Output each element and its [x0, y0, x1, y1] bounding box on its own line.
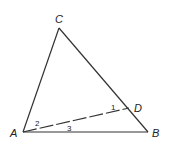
- triangle-sides: [23, 28, 148, 132]
- triangle-diagram: C A B D 1 2 3: [0, 0, 170, 149]
- angle-label-1: 1: [111, 103, 116, 112]
- point-label-a: A: [9, 127, 17, 139]
- point-label-c: C: [55, 13, 63, 25]
- point-label-b: B: [152, 127, 159, 139]
- angle-label-3: 3: [67, 124, 72, 133]
- segment-ac: [23, 28, 59, 132]
- segment-cb: [59, 28, 148, 132]
- angle-label-2: 2: [35, 119, 40, 128]
- point-label-d: D: [134, 102, 142, 114]
